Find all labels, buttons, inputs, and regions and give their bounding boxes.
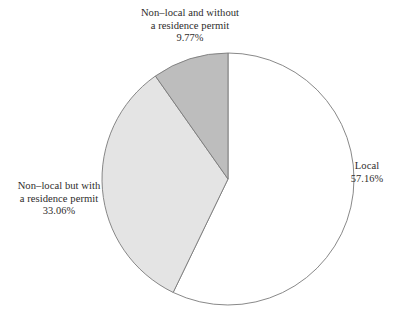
slice-label-line-1: Non–local but with bbox=[4, 180, 114, 193]
slice-label-percent: 57.16% bbox=[340, 173, 394, 186]
slice-label-percent: 33.06% bbox=[4, 205, 114, 218]
slice-label-nonlocal-with-permit: Non–local but with a residence permit 33… bbox=[4, 180, 114, 218]
pie-chart-svg bbox=[0, 0, 396, 312]
pie-chart-figure: Non–local and without a residence permit… bbox=[0, 0, 396, 312]
pie-slices-group bbox=[102, 53, 354, 305]
slice-label-nonlocal-without-permit: Non–local and without a residence permit… bbox=[108, 7, 272, 45]
slice-label-line-1: Non–local and without bbox=[108, 7, 272, 20]
slice-label-percent: 9.77% bbox=[108, 32, 272, 45]
slice-label-line-1: Local bbox=[340, 160, 394, 173]
slice-label-line-2: a residence permit bbox=[108, 20, 272, 33]
slice-label-local: Local 57.16% bbox=[340, 160, 394, 185]
slice-label-line-2: a residence permit bbox=[4, 193, 114, 206]
